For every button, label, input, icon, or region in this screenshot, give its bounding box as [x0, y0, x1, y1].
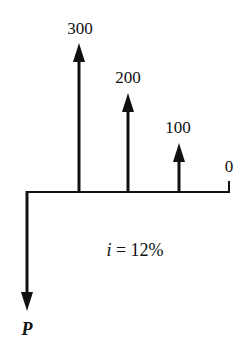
- cash-flow-label-0: 0: [225, 158, 234, 175]
- present-value-arrow: [21, 191, 33, 311]
- cash-flow-label-100: 100: [165, 119, 191, 136]
- cash-flow-arrow-300: [73, 43, 85, 192]
- cash-flow-diagram: [0, 0, 249, 353]
- cash-flow-arrow-200: [122, 93, 134, 192]
- interest-symbol: i: [106, 240, 111, 260]
- cash-flow-label-300: 300: [67, 20, 93, 37]
- cash-flow-label-200: 200: [115, 69, 141, 86]
- cash-flow-arrow-100: [173, 143, 185, 192]
- interest-value: = 12%: [116, 240, 164, 260]
- present-value-label: P: [22, 320, 33, 338]
- interest-rate-label: i = 12%: [106, 241, 163, 259]
